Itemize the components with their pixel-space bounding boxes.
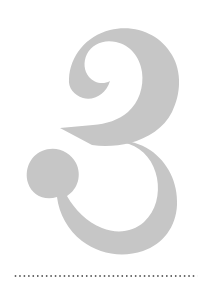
numeral-three-shape: [27, 28, 179, 254]
numeral-lower-bowl: [27, 140, 177, 254]
numeral-upper-bowl: [60, 28, 179, 146]
dotted-divider-svg: [14, 275, 198, 277]
chapter-numeral: [0, 0, 202, 262]
numeral-three-glyph: [0, 0, 202, 262]
dotted-divider: [14, 275, 198, 277]
chapter-opener-page: [0, 0, 202, 298]
